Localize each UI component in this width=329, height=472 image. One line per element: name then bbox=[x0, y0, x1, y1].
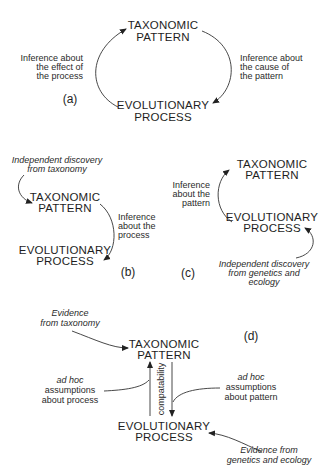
panel-a-right-arrow bbox=[202, 31, 231, 103]
panel-b-top-label-line2: from taxonomy bbox=[27, 164, 87, 174]
panel-d-top-left-label-line2: from taxonomy bbox=[40, 318, 100, 328]
panel-a-evolutionary-process-line1: EVOLUTIONARY bbox=[117, 99, 209, 111]
panel-a-taxonomic-pattern-line1: TAXONOMIC bbox=[128, 19, 199, 31]
panel-d-left-connector bbox=[104, 380, 149, 391]
panel-d-bottom-right-label-line2: genetics and ecology bbox=[227, 455, 312, 465]
panel-a-label: (a) bbox=[63, 92, 78, 106]
panel-b: Independent discovery from taxonomy TAXO… bbox=[12, 155, 156, 279]
panel-b-label: (b) bbox=[121, 265, 136, 279]
panel-d-evolutionary-process-line2: PROCESS bbox=[135, 431, 193, 443]
panel-c-left-label-line3: pattern bbox=[182, 198, 210, 208]
panel-d-top-left-label-line1: Evidence bbox=[51, 308, 88, 318]
panel-d-taxonomic-pattern-line2: PATTERN bbox=[137, 349, 190, 361]
panel-b-evolutionary-process-line2: PROCESS bbox=[36, 255, 94, 267]
panel-d-bottom-right-label-line1: Evidence from bbox=[240, 445, 298, 455]
panel-d-right-label-line1: ad hoc bbox=[237, 372, 265, 382]
panel-c-evolutionary-process-line2: PROCESS bbox=[243, 222, 301, 234]
panel-a-evolutionary-process-line2: PROCESS bbox=[134, 111, 192, 123]
panel-d-left-label-line2: assumptions bbox=[45, 385, 96, 395]
panel-d-compatability-label: compatability bbox=[156, 362, 166, 415]
panel-b-right-label-line3: process bbox=[118, 230, 150, 240]
figure-canvas: TAXONOMIC PATTERN EVOLUTIONARY PROCESS I… bbox=[0, 0, 329, 472]
panel-a-left-arrow bbox=[96, 29, 126, 107]
panel-c-bottom-label-line3: ecology bbox=[248, 277, 280, 287]
panel-a-right-label-line3: the pattern bbox=[240, 71, 283, 81]
panel-a-left-label-line3: the process bbox=[36, 71, 83, 81]
panel-c-taxonomic-pattern-line2: PATTERN bbox=[245, 169, 298, 181]
panel-d: Evidence from taxonomy TAXONOMIC PATTERN… bbox=[40, 308, 312, 465]
panel-d-right-label-line2: assumptions bbox=[226, 382, 277, 392]
panel-c: TAXONOMIC PATTERN EVOLUTIONARY PROCESS I… bbox=[172, 158, 318, 287]
panel-d-left-label-line3: about process bbox=[42, 395, 99, 405]
panel-d-label: (d) bbox=[244, 329, 259, 343]
panel-d-right-label-line3: about pattern bbox=[224, 392, 277, 402]
panel-c-label: (c) bbox=[181, 266, 195, 280]
panel-d-right-connector bbox=[173, 388, 220, 402]
panel-d-left-label-line1: ad hoc bbox=[56, 375, 84, 385]
panel-d-top-left-arrow bbox=[72, 331, 128, 348]
panel-a-taxonomic-pattern-line2: PATTERN bbox=[136, 31, 189, 43]
panel-a: TAXONOMIC PATTERN EVOLUTIONARY PROCESS I… bbox=[20, 19, 303, 123]
panel-b-taxonomic-pattern-line2: PATTERN bbox=[38, 202, 91, 214]
